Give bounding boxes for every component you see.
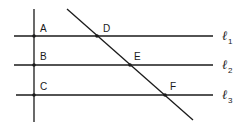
label-c: C xyxy=(40,81,47,92)
label-l3-subscript: 3 xyxy=(228,96,233,105)
parallel-lines-diagram: A B C D E F ℓ 1 ℓ 2 ℓ 3 xyxy=(0,0,246,130)
point-f xyxy=(163,93,167,97)
label-l2-subscript: 2 xyxy=(228,66,233,75)
label-l1-subscript: 1 xyxy=(228,37,233,46)
point-d xyxy=(95,34,99,38)
point-e xyxy=(128,63,132,67)
label-d: D xyxy=(103,23,110,34)
label-e: E xyxy=(134,51,141,62)
label-a: A xyxy=(40,23,47,34)
label-f: F xyxy=(170,81,176,92)
point-b xyxy=(32,63,36,67)
point-c xyxy=(32,93,36,97)
label-b: B xyxy=(40,51,47,62)
point-a xyxy=(32,34,36,38)
